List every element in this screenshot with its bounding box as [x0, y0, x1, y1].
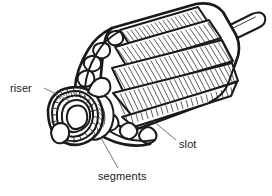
armature-diagram: riser segments slot: [0, 0, 272, 196]
armature-line-drawing: riser segments slot: [0, 0, 272, 196]
label-segments: segments: [98, 170, 147, 182]
label-riser: riser: [10, 82, 32, 94]
label-slot: slot: [179, 138, 197, 150]
commutator: [48, 78, 114, 145]
